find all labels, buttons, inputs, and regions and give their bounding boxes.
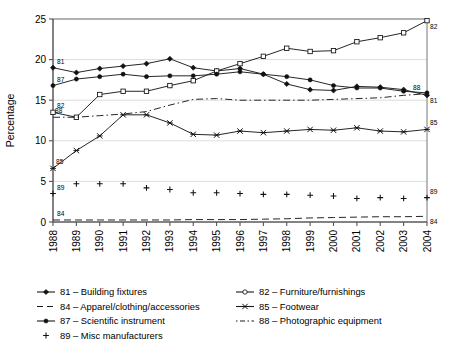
legend-label-88: 88 – Photographic equipment [259,315,382,326]
datapoint-85-1997 [260,130,266,135]
legend-item-82[interactable]: 82 – Furniture/furnishings [236,286,366,297]
legend-label-85: 85 – Footwear [259,301,319,312]
x-tick-label-1995: 1995 [211,230,222,253]
datapoint-81-1989 [74,70,79,75]
series-84 [53,216,427,220]
series-87 [51,70,429,95]
legend-marker-87 [44,319,48,323]
x-tick-label-1996: 1996 [235,230,246,253]
series-line-87 [53,72,427,93]
x-tick-label-1994: 1994 [188,230,199,253]
series-85 [50,112,430,171]
datapoint-85-2000 [331,128,337,133]
datapoint-81-1998 [284,81,289,86]
legend-item-88[interactable]: 88 – Photographic equipment [236,315,382,326]
x-tick-label-1989: 1989 [71,230,82,253]
x-tick-label-1999: 1999 [305,230,316,253]
datapoint-89-2002 [377,195,383,201]
y-tick-label-15: 15 [35,95,47,106]
datapoint-89-1994 [190,190,196,196]
datapoint-82-2000 [331,48,335,52]
series-start-label-88: 88 [55,107,63,114]
legend-sample-82 [236,290,254,294]
legend-label-82: 82 – Furniture/furnishings [259,286,366,297]
series-end-label-88: 88 [413,84,421,91]
legend-item-87[interactable]: 87 – Scientific instrument [37,315,165,326]
datapoint-87-1989 [74,77,78,81]
y-tick-label-25: 25 [35,14,47,25]
legend-sample-81 [37,289,55,294]
datapoint-89-1988 [50,191,56,197]
series-end-label-81: 81 [430,97,438,104]
x-tick-label-2001: 2001 [351,230,362,253]
x-tick-label-1990: 1990 [94,230,105,253]
line-chart-svg: 0510152025Percentage19881989199019911992… [0,0,450,344]
datapoint-87-1992 [144,75,148,79]
legend-sample-89 [43,333,49,339]
datapoint-87-2003 [402,89,406,93]
series-start-label-81: 81 [57,58,65,65]
series-end-label-89: 89 [430,188,438,195]
datapoint-89-2003 [401,196,407,202]
legend-label-89: 89 – Misc manufacturers [60,330,163,341]
datapoint-85-2003 [401,129,407,134]
datapoint-82-1997 [261,54,265,58]
datapoint-89-2004 [424,195,430,201]
datapoint-87-1994 [191,74,195,78]
datapoint-87-2000 [331,83,335,87]
datapoint-82-1999 [308,49,312,53]
x-tick-label-1992: 1992 [141,230,152,253]
datapoint-87-1990 [98,75,102,79]
datapoint-82-2002 [378,35,382,39]
y-tick-label-5: 5 [40,176,46,187]
x-tick-label-2003: 2003 [398,230,409,253]
datapoint-85-1994 [190,132,196,137]
legend-label-87: 87 – Scientific instrument [60,315,165,326]
x-tick-label-1991: 1991 [118,230,129,253]
chart-legend: 81 – Building fixtures82 – Furniture/fur… [37,286,382,341]
legend-item-85[interactable]: 85 – Footwear [236,301,319,312]
datapoint-81-1990 [97,66,102,71]
x-tick-label-2000: 2000 [328,230,339,253]
datapoint-87-2001 [355,86,359,90]
datapoint-82-1991 [121,89,125,93]
series-line-85 [53,115,427,169]
datapoint-87-1997 [261,72,265,76]
series-start-label-89: 89 [57,184,65,191]
series-line-88 [53,94,427,118]
y-tick-label-0: 0 [40,217,46,228]
series-88 [53,94,427,118]
datapoint-87-2002 [378,86,382,90]
datapoint-87-1995 [215,72,219,76]
y-axis-title: Percentage [4,93,16,147]
datapoint-89-1992 [144,185,150,191]
datapoint-89-1993 [167,187,173,193]
legend-item-84[interactable]: 84 – Apparel/clothing/accessories [37,301,200,312]
datapoint-87-1999 [308,78,312,82]
chart-figure: 0510152025Percentage19881989199019911992… [0,0,450,344]
y-tick-label-20: 20 [35,54,47,65]
datapoint-81-1994 [191,65,196,70]
legend-marker-85 [242,304,248,309]
legend-marker-82 [243,290,247,294]
series-start-label-87: 87 [57,76,65,83]
datapoint-82-2003 [401,31,405,35]
datapoint-87-1991 [121,72,125,76]
datapoint-81-1988 [50,65,55,70]
series-end-label-85: 85 [430,119,438,126]
datapoint-85-2001 [354,125,360,130]
legend-item-89[interactable]: 89 – Misc manufacturers [43,330,163,341]
x-tick-label-1988: 1988 [48,230,59,253]
datapoint-81-1999 [308,87,313,92]
series-end-label-84: 84 [430,218,438,225]
legend-item-81[interactable]: 81 – Building fixtures [37,286,147,297]
datapoint-89-1998 [284,191,290,197]
datapoint-85-1999 [307,127,313,132]
datapoint-82-1994 [191,79,195,83]
series-start-label-84: 84 [57,210,65,217]
datapoint-85-1990 [97,133,103,138]
datapoint-85-1989 [73,148,79,153]
datapoint-82-1992 [144,89,148,93]
datapoint-89-1999 [307,192,313,198]
legend-label-84: 84 – Apparel/clothing/accessories [60,301,200,312]
